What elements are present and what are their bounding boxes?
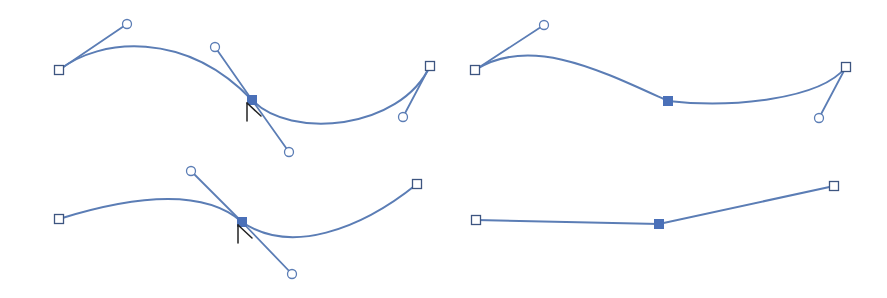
direction-line [242,222,292,274]
bezier-path[interactable] [59,46,430,123]
direction-handle-point[interactable] [288,270,297,279]
direction-handle-point[interactable] [815,114,824,123]
direction-handle-point[interactable] [540,21,549,30]
bezier-path[interactable] [475,55,846,103]
direction-handle-point[interactable] [123,20,132,29]
anchor-point[interactable] [426,62,435,71]
anchor-point[interactable] [55,215,64,224]
bezier-path[interactable] [476,186,834,224]
direction-line [191,171,242,222]
anchor-point[interactable] [842,63,851,72]
bezier-diagram-canvas [0,0,887,298]
direction-handle-point[interactable] [399,113,408,122]
direction-handle-point[interactable] [187,167,196,176]
panel-bottom-left [55,167,422,279]
panel-top-left [55,20,435,157]
bezier-diagram-svg [0,0,887,298]
anchor-point[interactable] [471,66,480,75]
panel-top-right [471,21,851,123]
panel-bottom-right [472,182,839,230]
direction-line [819,67,846,118]
direction-handle-point[interactable] [285,148,294,157]
anchor-point[interactable] [413,180,422,189]
direction-handle-point[interactable] [211,43,220,52]
anchor-point[interactable] [55,66,64,75]
anchor-point[interactable] [472,216,481,225]
direction-line [252,100,289,152]
anchor-point-selected[interactable] [663,96,673,106]
anchor-point-selected[interactable] [654,219,664,229]
anchor-point[interactable] [830,182,839,191]
